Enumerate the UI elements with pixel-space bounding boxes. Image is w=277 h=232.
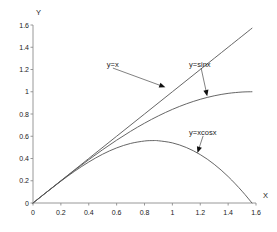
y-tick-label: 1.4 — [4, 44, 29, 51]
plot-canvas — [0, 0, 277, 232]
y-tick-label: 1.2 — [4, 66, 29, 73]
x-tick-label: 1 — [160, 209, 184, 216]
x-tick-label: 0.4 — [77, 209, 101, 216]
data-curves-group — [33, 28, 252, 203]
y-tick-label: 0.6 — [4, 133, 29, 140]
annotation-arrowhead — [197, 146, 202, 153]
annotation-arrowhead — [159, 83, 166, 88]
annotation-arrows-group — [113, 68, 209, 153]
y-tick-label: 0.2 — [4, 177, 29, 184]
annotation-leader-line — [113, 68, 162, 86]
y-tick-label: 0.8 — [4, 111, 29, 118]
curve-label-y-sinx: y=sinx — [189, 61, 210, 69]
y-tick-label: 0.4 — [4, 155, 29, 162]
function-plot-figure: Y X 00.20.40.60.811.21.41.600.20.40.60.8… — [0, 0, 277, 232]
curve-label-y-xcosx: y=xcosx — [189, 129, 216, 137]
annotation-leader-line — [199, 136, 203, 149]
y-tick-label: 0 — [4, 200, 29, 207]
x-tick-label: 0.6 — [105, 209, 129, 216]
curve-label-y-x: y=x — [107, 61, 119, 69]
x-tick-label: 1.4 — [216, 209, 240, 216]
y-axis-title: Y — [36, 9, 41, 17]
x-tick-label: 0.2 — [49, 209, 73, 216]
x-tick-label: 0 — [21, 209, 45, 216]
x-axis-title: X — [263, 192, 268, 200]
x-tick-label: 1.2 — [188, 209, 212, 216]
annotation-arrowhead — [203, 90, 208, 97]
y-tick-label: 1 — [4, 88, 29, 95]
annotation-leader-line — [201, 68, 206, 92]
curve-y-equals-sinx — [33, 92, 252, 203]
y-tick-label: 1.6 — [4, 22, 29, 29]
x-tick-label: 0.8 — [133, 209, 157, 216]
x-tick-label: 1.6 — [244, 209, 268, 216]
curve-y-equals-xcosx — [33, 141, 252, 203]
